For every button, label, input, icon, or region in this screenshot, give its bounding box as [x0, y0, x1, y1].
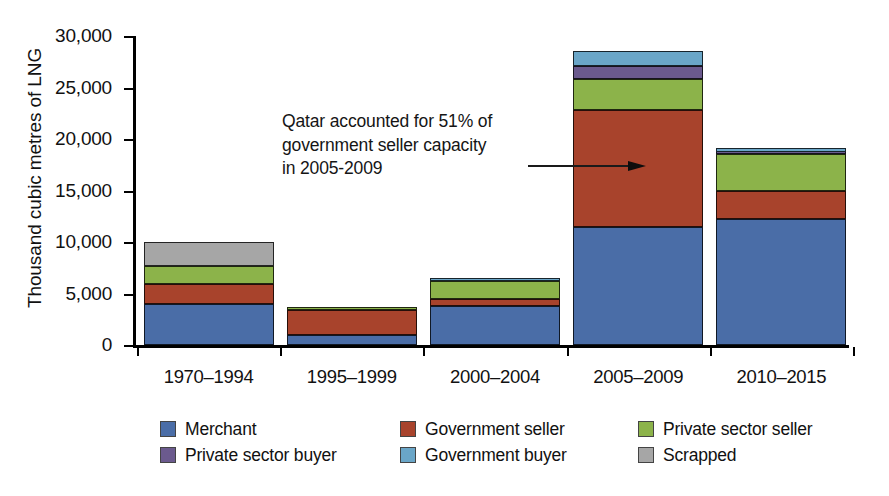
y-tick: 0	[124, 345, 133, 347]
y-tick: 30,000	[124, 36, 133, 38]
legend-swatch-icon	[160, 447, 176, 463]
x-axis-label-1970–1994: 1970–1994	[164, 366, 254, 388]
bar-segment-private-sector-seller[interactable]	[573, 79, 703, 110]
legend-swatch-icon	[638, 421, 654, 437]
x-tick	[280, 347, 282, 356]
legend-swatch-icon	[400, 421, 416, 437]
x-tick	[853, 347, 855, 356]
bar-segment-private-sector-seller[interactable]	[287, 307, 417, 310]
stacked-bar-chart-figure: Thousand cubic metres of LNG 05,00010,00…	[0, 0, 889, 496]
bar-2005–2009[interactable]	[573, 51, 703, 345]
legend-label: Private sector buyer	[185, 445, 337, 466]
legend-item-scrapped[interactable]: Scrapped	[638, 445, 860, 466]
x-tick	[710, 347, 712, 356]
bar-1970–1994[interactable]	[144, 242, 274, 346]
y-tick: 15,000	[124, 191, 133, 193]
annotation-arrow-icon	[528, 160, 646, 172]
x-axis-line	[133, 345, 849, 348]
bar-segment-merchant[interactable]	[287, 335, 417, 345]
bar-segment-merchant[interactable]	[430, 306, 560, 345]
bar-segment-scrapped[interactable]	[144, 242, 274, 267]
y-tick-label: 20,000	[55, 128, 112, 150]
y-tick-label: 0	[102, 334, 112, 356]
x-tick	[423, 347, 425, 356]
x-axis-label-2010–2015: 2010–2015	[736, 366, 826, 388]
x-axis-label-2000–2004: 2000–2004	[450, 366, 540, 388]
legend-item-government-seller[interactable]: Government seller	[400, 419, 638, 440]
legend-label: Private sector seller	[663, 419, 812, 440]
legend-label: Government buyer	[425, 445, 567, 466]
annotation-text: Qatar accounted for 51% of government se…	[282, 110, 492, 181]
bar-segment-government-seller[interactable]	[430, 299, 560, 306]
legend-swatch-icon	[160, 421, 176, 437]
x-tick	[567, 347, 569, 356]
bar-segment-government-buyer[interactable]	[573, 51, 703, 66]
bar-segment-merchant[interactable]	[716, 219, 846, 345]
bar-segment-private-sector-seller[interactable]	[430, 281, 560, 299]
legend-item-private-sector-seller[interactable]: Private sector seller	[638, 419, 860, 440]
legend-label: Government seller	[425, 419, 565, 440]
y-tick-label: 30,000	[55, 25, 112, 47]
bar-segment-private-sector-seller[interactable]	[716, 154, 846, 190]
bar-segment-private-sector-buyer[interactable]	[573, 66, 703, 78]
y-tick: 20,000	[124, 139, 133, 141]
legend-label: Merchant	[185, 419, 256, 440]
y-tick-label: 15,000	[55, 179, 112, 201]
y-axis-title: Thousand cubic metres of LNG	[24, 8, 64, 348]
bar-segment-government-seller[interactable]	[716, 191, 846, 220]
x-tick	[137, 347, 139, 356]
legend-item-private-sector-buyer[interactable]: Private sector buyer	[160, 445, 400, 466]
plot-area: 05,00010,00015,00020,00025,00030,000 197…	[133, 36, 849, 347]
legend-label: Scrapped	[663, 445, 736, 466]
legend-swatch-icon	[400, 447, 416, 463]
y-tick-label: 10,000	[55, 231, 112, 253]
bar-1995–1999[interactable]	[287, 308, 417, 345]
legend-item-merchant[interactable]: Merchant	[160, 419, 400, 440]
chart-legend: MerchantGovernment sellerPrivate sector …	[160, 416, 860, 468]
bar-segment-merchant[interactable]	[144, 304, 274, 345]
bar-segment-government-seller[interactable]	[144, 284, 274, 304]
y-tick: 10,000	[124, 242, 133, 244]
x-axis-label-2005–2009: 2005–2009	[593, 366, 683, 388]
y-tick: 25,000	[124, 88, 133, 90]
bar-segment-government-buyer[interactable]	[716, 148, 846, 152]
bar-segment-merchant[interactable]	[573, 227, 703, 345]
y-tick-label: 5,000	[65, 282, 112, 304]
legend-swatch-icon	[638, 447, 654, 463]
bar-segment-government-buyer[interactable]	[430, 278, 560, 281]
y-tick: 5,000	[124, 294, 133, 296]
bar-2000–2004[interactable]	[430, 278, 560, 345]
bar-segment-private-sector-seller[interactable]	[144, 266, 274, 284]
y-tick-label: 25,000	[55, 76, 112, 98]
bar-segment-government-seller[interactable]	[287, 310, 417, 335]
legend-item-government-buyer[interactable]: Government buyer	[400, 445, 638, 466]
y-axis-line	[133, 36, 136, 347]
x-axis-label-1995–1999: 1995–1999	[307, 366, 397, 388]
bar-2010–2015[interactable]	[716, 148, 846, 345]
